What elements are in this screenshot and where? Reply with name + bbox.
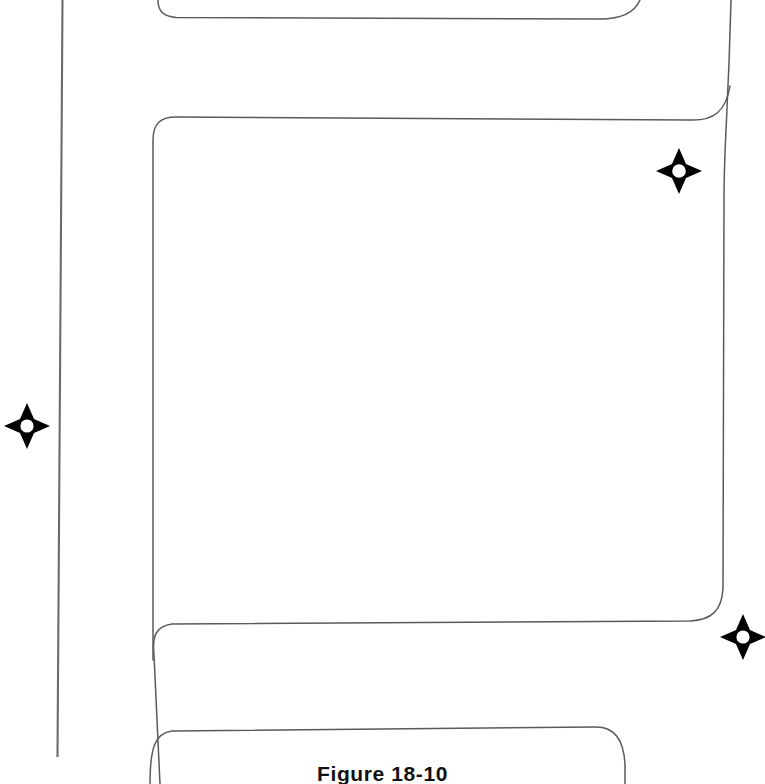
survey-monument-1[interactable] — [656, 148, 702, 194]
left-property-line — [58, 0, 63, 757]
survey-monument-3[interactable] — [720, 614, 765, 660]
survey-monument-2[interactable] — [4, 403, 50, 449]
site-plan-drawing — [0, 0, 765, 784]
block-curb-northwest — [153, 86, 730, 660]
figure-page: Figure 18-10 — [0, 0, 765, 784]
upper-curb-return-north — [158, 0, 640, 19]
survey-monument-center-ring — [20, 419, 35, 434]
survey-monument-center-ring — [671, 163, 686, 178]
figure-caption: Figure 18-10 — [0, 762, 765, 784]
survey-monument-center-ring — [736, 630, 751, 645]
